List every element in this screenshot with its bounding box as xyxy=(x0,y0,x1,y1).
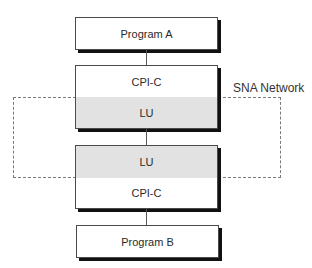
connector-lu-to-lu xyxy=(146,129,147,145)
program-b-box: Program B xyxy=(76,225,219,258)
program-b-label: Program B xyxy=(121,236,174,248)
bottom-stack-box: LU CPI-C xyxy=(75,145,218,209)
top-cpic-label: CPI-C xyxy=(132,76,162,88)
program-a-label: Program A xyxy=(121,28,173,40)
bottom-lu-label: LU xyxy=(139,156,153,168)
top-lu-layer: LU xyxy=(76,97,217,128)
connector-cpic-to-program-b xyxy=(146,209,147,225)
top-cpic-layer: CPI-C xyxy=(76,66,217,97)
bottom-lu-layer: LU xyxy=(76,146,217,178)
bottom-cpic-label: CPI-C xyxy=(132,187,162,199)
top-stack-box: CPI-C LU xyxy=(75,65,218,129)
program-a-box: Program A xyxy=(75,17,218,50)
top-lu-label: LU xyxy=(139,107,153,119)
sna-network-label: SNA Network xyxy=(233,81,304,95)
program-a-cell: Program A xyxy=(76,18,217,49)
connector-program-a-to-cpic xyxy=(146,50,147,65)
program-b-cell: Program B xyxy=(77,226,218,257)
bottom-cpic-layer: CPI-C xyxy=(76,178,217,208)
